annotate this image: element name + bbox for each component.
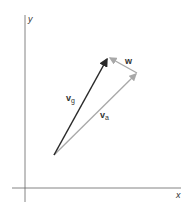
label-va: va — [100, 110, 109, 121]
y-axis-label: y — [27, 14, 33, 24]
vector-vg — [54, 59, 107, 155]
vector-va — [54, 74, 136, 155]
label-vg: vg — [66, 93, 75, 105]
label-w: w — [124, 56, 133, 66]
vector-w — [110, 58, 137, 73]
x-axis-label: x — [175, 190, 181, 200]
vector-diagram: y x w vg va — [0, 0, 195, 216]
